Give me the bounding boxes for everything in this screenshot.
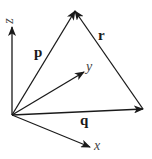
y-axis-label: y	[86, 59, 92, 75]
vector-r-label: r	[98, 27, 105, 44]
vector-p	[12, 11, 75, 115]
vector-q-label: q	[80, 112, 88, 129]
x-axis-label: x	[94, 138, 100, 154]
vector-p-label: p	[34, 44, 42, 61]
vector-diagram	[0, 0, 152, 159]
z-axis-label: z	[1, 18, 17, 23]
x-axis	[12, 115, 90, 147]
y-axis	[12, 72, 84, 115]
vector-q	[12, 109, 143, 115]
